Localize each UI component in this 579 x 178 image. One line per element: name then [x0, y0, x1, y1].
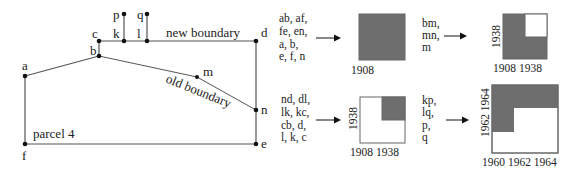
label-b: b: [90, 43, 97, 58]
label-n: n: [261, 102, 268, 117]
element-list-2: bm, mn, m: [422, 17, 442, 53]
point-l: [145, 39, 150, 44]
label-q: q: [137, 7, 144, 22]
label-m: m: [203, 64, 213, 79]
element-list-1: ab, af, fe, en, a, b, e, f, n: [279, 12, 310, 63]
new-boundary-label: new boundary: [166, 25, 241, 40]
label-l: l: [137, 26, 141, 41]
arrowhead-icon: [462, 117, 469, 124]
arrowhead-icon: [334, 117, 341, 124]
point-n: [254, 108, 259, 113]
point-m: [195, 75, 199, 79]
label-c: c: [92, 26, 98, 41]
point-e: [254, 142, 259, 147]
y-axis-label-2: 1938: [490, 25, 502, 48]
point-p: [122, 12, 127, 17]
lifespan-box-1: [359, 14, 405, 60]
x-axis-label-4: 1960 1962 1964: [482, 156, 557, 168]
parcel-evolution-diagram: a b c k l p q d m n e f new boundary old…: [0, 0, 579, 178]
transition-2: bm, mn, m 1938 1908 1938: [422, 14, 547, 74]
x-axis-label-3: 1908 1938: [350, 146, 399, 158]
point-q: [145, 12, 150, 17]
point-f: [23, 142, 28, 147]
label-e: e: [261, 136, 267, 151]
element-list-3: nd, dl, lk, kc, cb, d, l, k, c: [281, 93, 313, 144]
point-d: [254, 39, 259, 44]
label-d: d: [261, 25, 268, 40]
point-a: [23, 74, 28, 79]
x-axis-label-2: 1908 1938: [493, 62, 542, 74]
parcel-label: parcel 4: [33, 126, 75, 141]
transition-4: kp, lq, p, q 1962 1964 1960 1962 1964: [422, 85, 558, 168]
arrowhead-icon: [334, 35, 341, 42]
parcel-map: a b c k l p q d m n e f new boundary old…: [22, 7, 268, 163]
label-p: p: [113, 7, 120, 22]
label-f: f: [22, 148, 27, 163]
arrowhead-icon: [460, 33, 467, 40]
transition-1: ab, af, fe, en, a, b, e, f, n 1908: [279, 12, 405, 76]
x-axis-label-1: 1908: [351, 64, 374, 76]
transition-3: nd, dl, lk, kc, cb, d, l, k, c 1938 1908…: [281, 93, 405, 158]
point-k: [122, 39, 127, 44]
y-axis-label-4: 1962 1964: [479, 88, 491, 137]
lifespan-box-3-fill: [382, 97, 405, 120]
element-list-4: kp, lq, p, q: [422, 94, 439, 144]
edge-ab: [25, 56, 99, 76]
lifespan-box-2-hole: [525, 14, 547, 37]
label-k: k: [113, 26, 120, 41]
point-b: [97, 54, 102, 59]
label-a: a: [22, 58, 28, 73]
y-axis-label-3: 1938: [347, 107, 359, 130]
